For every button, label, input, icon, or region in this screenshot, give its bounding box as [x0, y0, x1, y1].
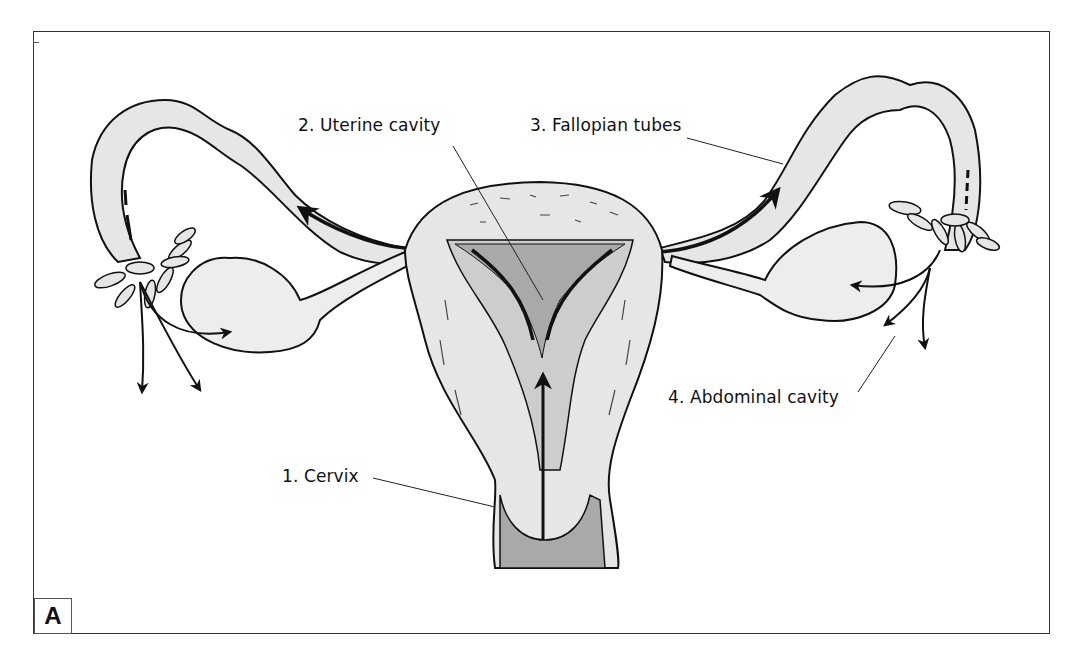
- panel-letter: A: [34, 598, 72, 634]
- uterus: [405, 182, 662, 568]
- reproductive-anatomy-illustration: [0, 0, 1075, 659]
- right-fimbriae: [888, 199, 1001, 252]
- label-fallopian-tubes: 3. Fallopian tubes: [530, 115, 682, 135]
- label-cervix: 1. Cervix: [282, 466, 359, 486]
- left-ovary: [140, 250, 415, 392]
- label-uterine-cavity: 2. Uterine cavity: [298, 115, 441, 135]
- label-abdominal-cavity: 4. Abdominal cavity: [668, 387, 839, 407]
